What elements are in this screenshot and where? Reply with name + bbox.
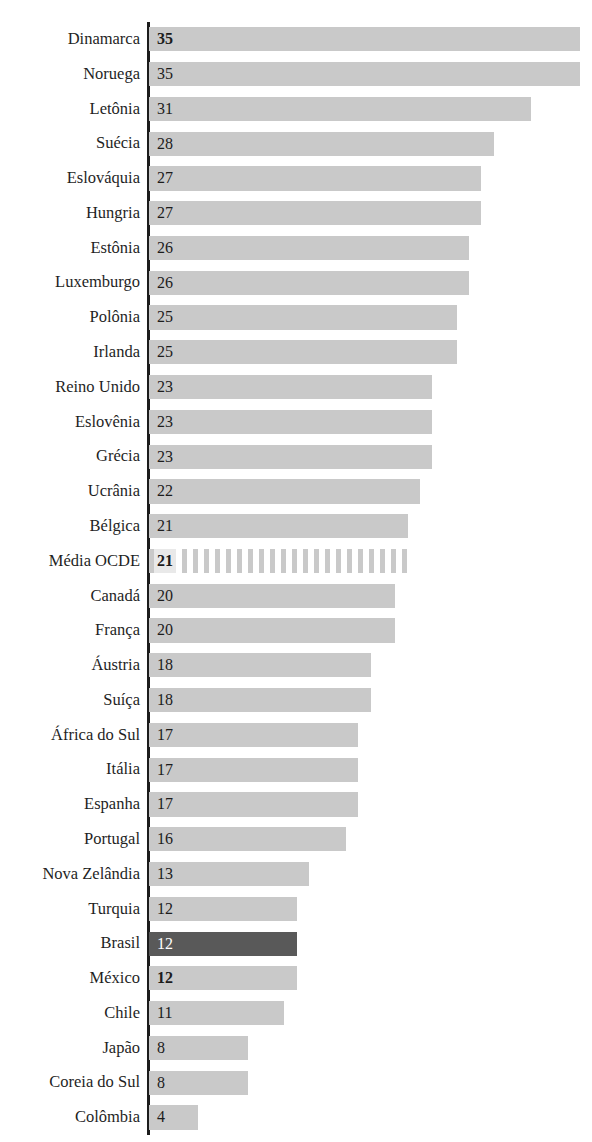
bar: [149, 27, 580, 51]
bar-row: Letônia31: [0, 92, 592, 127]
bar-row: Reino Unido23: [0, 370, 592, 405]
bar-value-label: 22: [157, 479, 173, 503]
bar-category-label: Irlanda: [93, 335, 140, 370]
bar-value-label: 28: [157, 132, 173, 156]
bar-row: Canadá20: [0, 579, 592, 614]
bar-category-label: México: [90, 961, 140, 996]
bar-category-label: Nova Zelândia: [42, 857, 140, 892]
bar-row: Ucrânia22: [0, 474, 592, 509]
bar-value-label: 27: [157, 166, 173, 190]
bar-category-label: Chile: [104, 996, 140, 1031]
horizontal-bar-chart: Dinamarca35Noruega35Letônia31Suécia28Esl…: [0, 0, 592, 1142]
bar-category-label: Reino Unido: [55, 370, 140, 405]
bar: [149, 62, 580, 86]
bar-category-label: Eslovênia: [75, 405, 140, 440]
bar: [149, 827, 346, 851]
bar-category-label: Suécia: [96, 126, 140, 161]
bar-value-label: 31: [157, 97, 173, 121]
bar-value-label: 17: [157, 792, 173, 816]
bar-category-label: Estônia: [91, 231, 141, 266]
bar-row: Portugal16: [0, 822, 592, 857]
bar-value-label: 17: [157, 723, 173, 747]
bar-row: Polônia25: [0, 300, 592, 335]
bar-category-label: Bélgica: [90, 509, 140, 544]
bar: [149, 271, 469, 295]
bar-category-label: Colômbia: [75, 1100, 140, 1135]
bar-row: México12: [0, 961, 592, 996]
bar-value-label: 11: [157, 1001, 172, 1025]
bar-value-label: 4: [157, 1105, 165, 1129]
bar-category-label: Polônia: [90, 300, 140, 335]
bar-row: Áustria18: [0, 648, 592, 683]
bar-category-label: Letônia: [90, 92, 140, 127]
bar-row: Eslovênia23: [0, 405, 592, 440]
bar: [149, 723, 358, 747]
bar: [149, 305, 457, 329]
bar: [149, 514, 408, 538]
bar-row: Estônia26: [0, 231, 592, 266]
bar: [149, 410, 432, 434]
bar: [149, 340, 457, 364]
bar-row: Hungria27: [0, 196, 592, 231]
bar-category-label: Noruega: [83, 57, 140, 92]
bar-row: Brasil12: [0, 926, 592, 961]
bar-value-label: 21: [154, 549, 176, 573]
bar: [149, 549, 408, 573]
bar-row: Itália17: [0, 752, 592, 787]
bar-category-label: Grécia: [96, 439, 140, 474]
bar-category-label: Espanha: [84, 787, 140, 822]
bar-value-label: 12: [157, 966, 173, 990]
bar-category-label: Luxemburgo: [55, 265, 140, 300]
bar-row: Luxemburgo26: [0, 265, 592, 300]
bar-row: Suíça18: [0, 683, 592, 718]
bar-category-label: Áustria: [91, 648, 140, 683]
bar-category-label: Suíça: [103, 683, 140, 718]
bar-category-label: Turquia: [88, 892, 140, 927]
bar-value-label: 23: [157, 445, 173, 469]
bar-value-label: 21: [157, 514, 173, 538]
bar-value-label: 13: [157, 862, 173, 886]
bar-value-label: 12: [157, 932, 173, 956]
bar-category-label: Japão: [102, 1031, 140, 1066]
bar: [149, 618, 395, 642]
bar: [149, 792, 358, 816]
bar-category-label: Portugal: [84, 822, 140, 857]
bar-value-label: 26: [157, 271, 173, 295]
bar-row: Chile11: [0, 996, 592, 1031]
bar-row: Colômbia4: [0, 1100, 592, 1135]
bar-row: Bélgica21: [0, 509, 592, 544]
bar-value-label: 26: [157, 236, 173, 260]
bar-row: Espanha17: [0, 787, 592, 822]
bar: [149, 166, 481, 190]
bar-value-label: 8: [157, 1071, 165, 1095]
bar-value-label: 23: [157, 375, 173, 399]
bar-value-label: 27: [157, 201, 173, 225]
bar-value-label: 12: [157, 897, 173, 921]
bar-row: Irlanda25: [0, 335, 592, 370]
bar-row: Média OCDE21: [0, 544, 592, 579]
chart-title: [0, 0, 592, 2]
bar-value-label: 25: [157, 305, 173, 329]
bar-row: Suécia28: [0, 126, 592, 161]
bar-value-label: 18: [157, 653, 173, 677]
bar: [149, 688, 371, 712]
bar-row: Turquia12: [0, 892, 592, 927]
bar-category-label: Coreia do Sul: [49, 1065, 140, 1100]
bar-category-label: Brasil: [101, 926, 140, 961]
bar-row: África do Sul17: [0, 718, 592, 753]
bar: [149, 132, 494, 156]
bar-value-label: 20: [157, 584, 173, 608]
bar: [149, 758, 358, 782]
bar-row: Noruega35: [0, 57, 592, 92]
bar-category-label: Média OCDE: [49, 544, 140, 579]
bar: [149, 97, 531, 121]
bar-category-label: Eslováquia: [67, 161, 140, 196]
bar: [149, 653, 371, 677]
bar: [149, 236, 469, 260]
bar-row: Grécia23: [0, 439, 592, 474]
bar-value-label: 23: [157, 410, 173, 434]
plot-area: Dinamarca35Noruega35Letônia31Suécia28Esl…: [0, 22, 592, 1135]
bar-value-label: 16: [157, 827, 173, 851]
bar-value-label: 35: [157, 27, 173, 51]
bar-category-label: Itália: [106, 752, 140, 787]
